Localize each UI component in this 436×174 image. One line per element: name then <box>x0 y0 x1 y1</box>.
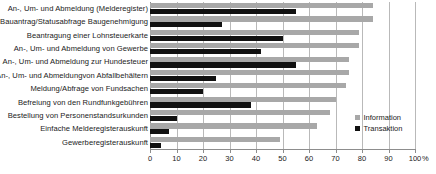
tick-label-70: 70 <box>331 154 339 163</box>
bar-transaktion <box>150 62 296 67</box>
x-axis-unit-label: % <box>422 154 429 163</box>
chart-legend: Information Transaktion <box>355 112 402 134</box>
tick-label-20: 20 <box>199 154 207 163</box>
category-label: An-, Um- und Abmeldung von Gewerbe <box>14 42 148 55</box>
bar-transaktion <box>150 116 177 121</box>
category-label: Gewerberegisterauskunft <box>62 136 148 149</box>
tick-label-0: 0 <box>148 154 152 163</box>
tick-label-60: 60 <box>305 154 313 163</box>
bar-information <box>150 3 373 8</box>
tick-label-80: 80 <box>358 154 366 163</box>
bar-row <box>150 2 415 15</box>
gridline-100 <box>415 2 416 149</box>
category-label: An-, Um- und Abmeldung zur Hundesteuer <box>3 55 148 68</box>
bar-information <box>150 110 330 115</box>
tick-mark-50 <box>283 149 284 153</box>
tick-label-50: 50 <box>278 154 286 163</box>
bar-row <box>150 42 415 55</box>
category-label: An-, Um- und Abmeldung (Melderegister) <box>8 2 148 15</box>
category-label: Befreiung von den Rundfunkgebühren <box>18 96 148 109</box>
bar-transaktion <box>150 143 161 148</box>
legend-swatch-information-icon <box>355 115 360 120</box>
bar-transaktion <box>150 102 251 107</box>
bar-information <box>150 97 336 102</box>
legend-item-transaktion: Transaktion <box>355 123 402 134</box>
tick-label-10: 10 <box>172 154 180 163</box>
tick-mark-20 <box>203 149 204 153</box>
tick-mark-0 <box>150 149 151 153</box>
bar-transaktion <box>150 9 296 14</box>
bar-transaktion <box>150 22 222 27</box>
bar-transaktion <box>150 36 283 41</box>
bar-row <box>150 29 415 42</box>
category-label: Bestellung von Personenstandsurkunden <box>8 109 148 122</box>
category-label: Beantragung einer Lohnsteuerkarte <box>27 29 148 42</box>
bar-transaktion <box>150 129 169 134</box>
tick-mark-80 <box>362 149 363 153</box>
bar-information <box>150 137 280 142</box>
tick-mark-10 <box>177 149 178 153</box>
tick-label-90: 90 <box>384 154 392 163</box>
bar-chart: An-, Um- und Abmeldung (Melderegister)Ba… <box>0 0 436 174</box>
bar-row <box>150 69 415 82</box>
bar-transaktion <box>150 49 261 54</box>
legend-swatch-transaktion-icon <box>355 126 360 131</box>
tick-mark-40 <box>256 149 257 153</box>
category-label: Meldung/Abfrage von Fundsachen <box>30 82 148 95</box>
category-label: Einfache Melderegisterauskunft <box>40 122 148 135</box>
bar-information <box>150 70 349 75</box>
bar-row <box>150 136 415 149</box>
bar-row <box>150 96 415 109</box>
legend-item-information: Information <box>355 112 402 123</box>
tick-mark-100 <box>415 149 416 153</box>
bar-information <box>150 30 359 35</box>
bar-information <box>150 43 359 48</box>
bar-transaktion <box>150 76 216 81</box>
bar-row <box>150 15 415 28</box>
tick-mark-70 <box>336 149 337 153</box>
bar-row <box>150 82 415 95</box>
legend-label-transaktion: Transaktion <box>364 123 403 134</box>
tick-label-30: 30 <box>225 154 233 163</box>
bar-information <box>150 123 317 128</box>
tick-mark-90 <box>389 149 390 153</box>
tick-mark-30 <box>230 149 231 153</box>
bar-transaktion <box>150 89 203 94</box>
category-label: An-, Um- und Abmeldungvon Abfallbehälter… <box>0 69 148 82</box>
tick-label-100: 100 <box>409 154 422 163</box>
bar-information <box>150 57 349 62</box>
bar-row <box>150 55 415 68</box>
category-label: Bauantrag/Statusabfrage Baugenehmigung <box>0 15 148 28</box>
bar-information <box>150 83 346 88</box>
bar-information <box>150 16 373 21</box>
tick-label-40: 40 <box>252 154 260 163</box>
legend-label-information: Information <box>364 112 402 123</box>
tick-mark-60 <box>309 149 310 153</box>
